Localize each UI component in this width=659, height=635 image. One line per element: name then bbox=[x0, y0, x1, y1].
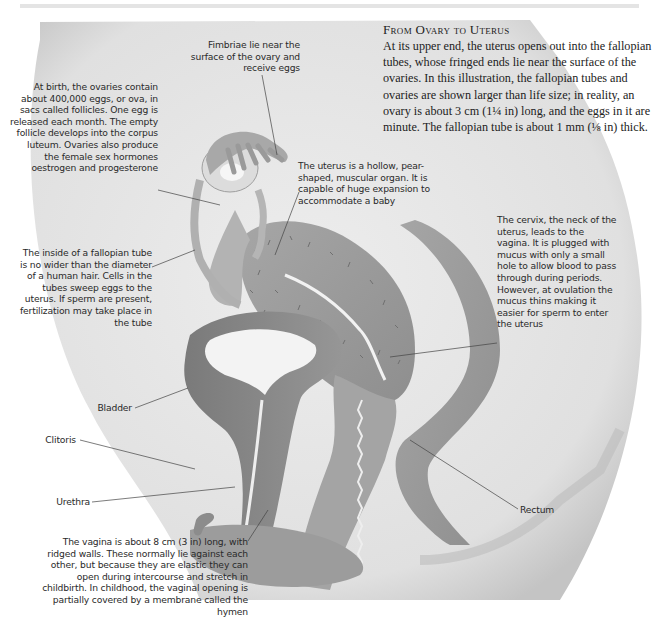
label-urethra: Urethra bbox=[20, 496, 90, 508]
label-ovaries: At birth, the ovaries contain about 400,… bbox=[10, 81, 158, 174]
label-clitoris: Clitoris bbox=[20, 434, 76, 446]
label-fallopian-tube: The inside of a fallopian tube is no wid… bbox=[20, 247, 152, 328]
label-uterus: The uterus is a hollow, pear-shaped, mus… bbox=[298, 160, 448, 206]
label-vagina: The vagina is about 8 cm (3 in) long, wi… bbox=[34, 536, 248, 617]
intro-text: At its upper end, the uterus opens out i… bbox=[383, 38, 653, 135]
label-bladder: Bladder bbox=[60, 402, 132, 414]
intro-block: From Ovary to Uterus At its upper end, t… bbox=[383, 22, 653, 135]
label-rectum: Rectum bbox=[520, 504, 580, 516]
label-fimbriae: Fimbriae lie near the surface of the ova… bbox=[180, 39, 300, 74]
page-title: From Ovary to Uterus bbox=[383, 22, 653, 38]
label-cervix: The cervix, the neck of the uterus, lead… bbox=[497, 214, 617, 330]
